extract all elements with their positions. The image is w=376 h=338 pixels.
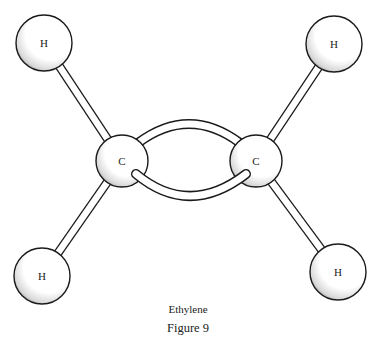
hydrogen-atom-top-right: H xyxy=(306,16,362,72)
single-bonds xyxy=(42,43,338,276)
double-bond-lower xyxy=(136,174,246,196)
svg-text:H: H xyxy=(40,37,48,49)
svg-text:H: H xyxy=(330,38,338,50)
molecule-name-caption: Ethylene xyxy=(0,303,376,315)
hydrogen-atom-bottom-right: H xyxy=(310,244,366,300)
figure-label: Figure 9 xyxy=(0,321,376,336)
svg-text:C: C xyxy=(252,155,259,167)
hydrogen-atom-bottom-left: H xyxy=(14,248,70,304)
svg-text:H: H xyxy=(334,266,342,278)
svg-text:C: C xyxy=(118,155,125,167)
hydrogen-atom-top-left: H xyxy=(16,15,72,71)
double-bond-upper xyxy=(138,124,240,143)
ethylene-molecule-diagram: H H H H C C xyxy=(0,0,376,338)
svg-text:H: H xyxy=(38,270,46,282)
